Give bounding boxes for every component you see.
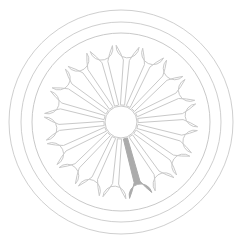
- center-hub: [105, 106, 137, 138]
- diagram-canvas: [0, 0, 241, 250]
- radial-spoke-wheel-svg: [0, 0, 241, 250]
- hub-circle[interactable]: [105, 106, 137, 138]
